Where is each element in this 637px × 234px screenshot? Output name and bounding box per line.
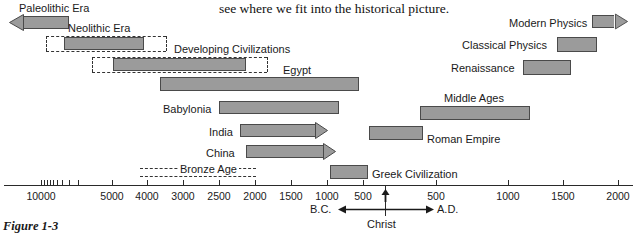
era-bar-middle-ages <box>420 106 530 120</box>
axis-tick-1000ad <box>508 180 509 186</box>
figure-caption: Figure 1-3 <box>3 219 58 234</box>
era-bar-egypt <box>160 77 359 91</box>
axis-label-1500bc: 1500 <box>279 190 302 202</box>
era-bar-india <box>240 124 328 137</box>
axis-label-1000ad: 1000 <box>496 190 519 202</box>
era-bar-renaissance <box>523 60 571 75</box>
era-label-roman-empire: Roman Empire <box>427 133 500 145</box>
era-bar-developing-civilizations <box>113 58 246 71</box>
axis-label-500bc: 500 <box>354 190 372 202</box>
arrow-right-head-icon <box>615 12 628 31</box>
bar-shaft <box>592 15 614 28</box>
axis-tick-4000bc <box>147 180 148 186</box>
axis-tick-500ad <box>436 180 437 186</box>
era-label-developing-civilizations: Developing Civilizations <box>174 43 290 55</box>
arrow-right-head-icon <box>315 121 328 140</box>
ad-direction-arrow-icon <box>386 205 434 214</box>
uncertainty-line-bronze-age-bottom <box>140 176 256 177</box>
uncertainty-line-developing-bottom <box>92 72 267 73</box>
timeline-figure: see where we fit into the historical pic… <box>0 0 637 234</box>
axis-tick-minor <box>44 180 45 185</box>
bar-shaft <box>240 124 315 137</box>
uncertainty-cap-developing-right <box>267 57 268 72</box>
era-bar-modern-physics <box>592 15 628 28</box>
epoch-label-ad: A.D. <box>437 203 458 215</box>
era-bar-paleolithic <box>9 14 69 31</box>
arrow-left-head-icon <box>9 14 24 31</box>
axis-tick-2000bc <box>255 180 256 186</box>
axis-label-1500ad: 1500 <box>551 190 574 202</box>
axis-tick-2500bc <box>219 180 220 186</box>
era-bar-greek-civilization <box>330 165 368 179</box>
era-label-renaissance: Renaissance <box>451 62 515 74</box>
axis-tick-minor <box>69 180 70 185</box>
axis-tick-minor <box>53 180 54 185</box>
axis-label-2500bc: 2500 <box>207 190 230 202</box>
axis-label-10000bc: 10000 <box>26 190 55 202</box>
era-label-modern-physics: Modern Physics <box>509 17 587 29</box>
axis-tick-500bc <box>363 180 364 186</box>
axis-tick-1500ad <box>563 180 564 186</box>
bar-shaft <box>246 145 323 158</box>
bc-direction-arrow-icon <box>338 205 386 214</box>
axis-tick-1000bc <box>327 180 328 186</box>
uncertainty-line-neolithic-bottom <box>46 51 166 52</box>
axis-label-2000bc: 2000 <box>243 190 266 202</box>
christ-up-arrow-icon <box>381 189 390 202</box>
era-label-middle-ages: Middle Ages <box>444 92 504 104</box>
uncertainty-cap-neolithic-right <box>166 36 167 51</box>
axis-tick-minor <box>50 180 51 185</box>
era-label-paleolithic: Paleolithic Era <box>19 2 89 14</box>
era-bar-neolithic <box>64 37 144 50</box>
timeline-axis <box>4 185 633 186</box>
era-label-babylonia: Babylonia <box>163 103 211 115</box>
epoch-label-bc: B.C. <box>310 203 331 215</box>
era-bar-china <box>246 145 336 158</box>
era-label-neolithic: Neolithic Era <box>68 22 130 34</box>
axis-label-5000bc: 5000 <box>100 190 123 202</box>
axis-tick-minor <box>47 180 48 185</box>
axis-tick-minor <box>57 180 58 185</box>
uncertainty-cap-neolithic-left <box>46 36 47 51</box>
bar-shaft <box>22 16 69 29</box>
axis-label-2000ad: 2000 <box>606 190 629 202</box>
axis-label-3000bc: 3000 <box>171 190 194 202</box>
era-bar-roman-empire <box>369 126 423 140</box>
era-label-india: India <box>209 126 233 138</box>
arrow-right-head-icon <box>323 142 336 161</box>
uncertainty-cap-developing-left <box>92 57 93 72</box>
era-label-greek-civilization: Greek Civilization <box>372 168 458 180</box>
axis-tick-minor <box>62 180 63 185</box>
axis-tick-2000ad <box>618 180 619 186</box>
axis-tick-1500bc <box>291 180 292 186</box>
axis-tick-10000bc <box>41 180 42 186</box>
axis-tick-minor <box>78 180 79 185</box>
axis-label-1000bc: 1000 <box>315 190 338 202</box>
body-text-line: see where we fit into the historical pic… <box>219 1 449 17</box>
era-bar-classical-physics <box>557 37 597 52</box>
axis-tick-5000bc <box>112 180 113 186</box>
origin-label-christ: Christ <box>367 218 396 230</box>
era-bar-babylonia <box>219 101 339 114</box>
era-label-china: China <box>206 147 235 159</box>
axis-label-4000bc: 4000 <box>135 190 158 202</box>
axis-label-500ad: 500 <box>427 190 445 202</box>
era-label-egypt: Egypt <box>283 64 311 76</box>
axis-tick-3000bc <box>183 180 184 186</box>
era-label-bronze-age: Bronze Age <box>178 163 239 175</box>
era-label-classical-physics: Classical Physics <box>462 39 547 51</box>
